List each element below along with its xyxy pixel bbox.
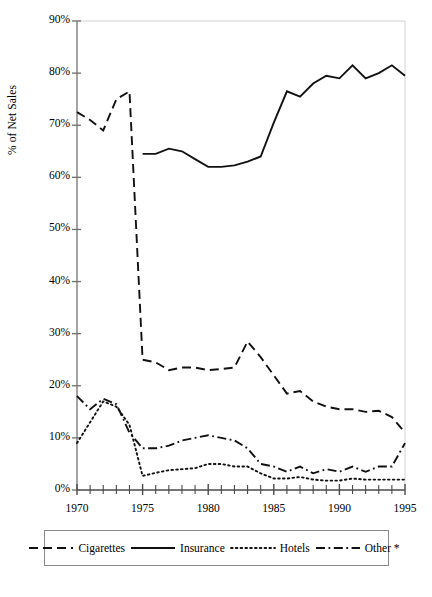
legend-label: Other * <box>365 542 405 554</box>
legend-line-swatch <box>28 543 74 553</box>
series-line-cigarettes <box>77 91 405 432</box>
chart-legend: CigarettesInsuranceHotelsOther * <box>44 530 389 566</box>
legend-entry[interactable]: Hotels <box>230 542 315 554</box>
legend-line-swatch <box>130 543 176 553</box>
chart-figure: % of Net Sales 0%10%20%30%40%50%60%70%80… <box>0 0 432 597</box>
plot-area <box>0 0 432 597</box>
legend-entry[interactable]: Other * <box>315 542 405 554</box>
series-line-other <box>77 396 405 473</box>
legend-line-swatch <box>315 543 361 553</box>
series-line-insurance <box>143 65 405 167</box>
legend-entry[interactable]: Insurance <box>130 542 230 554</box>
legend-label: Hotels <box>280 542 315 554</box>
legend-entry[interactable]: Cigarettes <box>28 542 130 554</box>
legend-label: Cigarettes <box>78 542 130 554</box>
legend-line-swatch <box>230 543 276 553</box>
legend-label: Insurance <box>180 542 230 554</box>
series-line-hotels <box>77 401 405 480</box>
